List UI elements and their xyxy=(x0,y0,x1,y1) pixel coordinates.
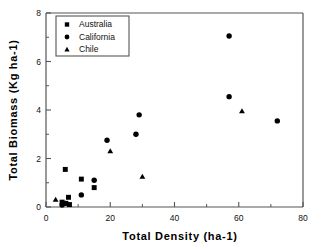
y-axis-tick-labels: 02468 xyxy=(36,8,41,212)
x-axis-ticks xyxy=(46,202,303,207)
data-point xyxy=(104,138,109,143)
chart-legend: AustraliaCaliforniaChile xyxy=(56,16,129,56)
chart-canvas: 020406080 02468 Total Density (ha-1) Tot… xyxy=(0,0,323,249)
y-tick-label: 4 xyxy=(36,105,41,115)
legend-marker-california xyxy=(65,35,70,40)
data-point xyxy=(136,112,141,117)
x-axis-tick-labels: 020406080 xyxy=(44,213,308,223)
legend-label-california: California xyxy=(79,32,115,42)
data-point xyxy=(53,197,59,202)
data-point xyxy=(275,118,280,123)
series-chile xyxy=(53,108,245,202)
data-point xyxy=(226,94,231,99)
y-tick-label: 6 xyxy=(36,57,41,67)
data-point xyxy=(79,177,84,182)
x-axis-title: Total Density (ha-1) xyxy=(122,230,237,242)
x-tick-label: 20 xyxy=(106,213,116,223)
y-axis-ticks xyxy=(46,13,51,207)
legend-label-australia: Australia xyxy=(79,19,112,29)
x-tick-label: 80 xyxy=(298,213,308,223)
data-point xyxy=(63,167,68,172)
data-point xyxy=(91,178,96,183)
x-tick-label: 0 xyxy=(44,213,49,223)
y-tick-label: 0 xyxy=(36,202,41,212)
data-point xyxy=(92,185,97,190)
data-point xyxy=(133,132,138,137)
y-tick-label: 8 xyxy=(36,8,41,18)
x-tick-label: 40 xyxy=(170,213,180,223)
scatter-plot-figure: 020406080 02468 Total Density (ha-1) Tot… xyxy=(0,0,323,249)
y-axis-title: Total Biomass (Kg ha-1) xyxy=(7,39,19,180)
y-tick-label: 2 xyxy=(36,154,41,164)
data-point xyxy=(107,148,113,153)
data-point xyxy=(66,195,71,200)
data-point xyxy=(79,192,84,197)
data-point xyxy=(239,108,245,113)
series-california xyxy=(59,33,280,207)
data-point xyxy=(63,201,68,206)
x-tick-label: 60 xyxy=(234,213,244,223)
data-point xyxy=(226,33,231,38)
legend-marker-australia xyxy=(65,22,69,26)
legend-label-chile: Chile xyxy=(79,44,99,54)
data-point xyxy=(139,174,145,179)
data-points-layer xyxy=(53,33,280,207)
